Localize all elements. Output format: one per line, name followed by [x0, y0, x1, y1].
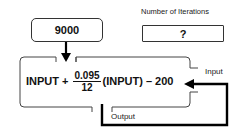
left-arrow-icon [184, 79, 194, 89]
input-label: Input [205, 67, 223, 76]
input-value: 9000 [55, 24, 79, 36]
fraction-numerator: 0.095 [73, 70, 100, 82]
down-arrow-icon [61, 53, 71, 62]
input-value-box: 9000 [31, 18, 103, 42]
formula-suffix: (INPUT) – 200 [103, 75, 174, 87]
output-label: Output [111, 112, 135, 121]
fraction-denominator: 12 [81, 82, 92, 93]
iterations-value: ? [180, 28, 187, 40]
formula: INPUT + 0.095 12 (INPUT) – 200 [26, 67, 173, 95]
iterations-box: ? [142, 25, 224, 42]
formula-prefix: INPUT + [26, 75, 68, 87]
fraction: 0.095 12 [73, 70, 100, 93]
iterations-label: Number of Iterations [141, 7, 209, 16]
